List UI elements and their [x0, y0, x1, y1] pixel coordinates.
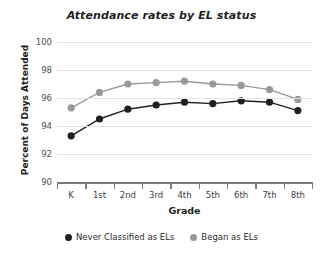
data-point: [238, 82, 245, 89]
data-point: [68, 132, 75, 139]
x-axis-tick: [142, 182, 143, 189]
data-point: [209, 80, 216, 87]
chart-legend: Never Classified as ELsBegan as ELs: [0, 232, 323, 242]
x-axis-tick: [199, 182, 200, 189]
y-axis-tick-label: 90: [26, 178, 52, 187]
x-axis-tick: [114, 182, 115, 189]
data-point: [153, 101, 160, 108]
data-point: [96, 115, 103, 122]
data-point: [96, 89, 103, 96]
x-axis-tick: [170, 182, 171, 189]
plot-area: [57, 42, 312, 182]
x-axis-line: [57, 182, 312, 184]
x-axis-tick: [312, 182, 313, 189]
legend-marker-icon: [190, 234, 197, 241]
gridline: [57, 98, 312, 99]
data-point: [294, 96, 301, 103]
data-point: [124, 80, 131, 87]
x-axis-title: Grade: [57, 205, 312, 216]
gridline: [57, 42, 312, 43]
legend-item[interactable]: Never Classified as ELs: [65, 232, 174, 242]
data-point: [181, 99, 188, 106]
y-axis-tick-labels: 9092949698100: [20, 0, 52, 264]
x-axis-tick: [255, 182, 256, 189]
data-point: [294, 107, 301, 114]
legend-marker-icon: [65, 234, 72, 241]
x-axis-tick: [284, 182, 285, 189]
data-point: [153, 79, 160, 86]
gridline: [57, 154, 312, 155]
x-axis-tick: [227, 182, 228, 189]
gridline: [57, 126, 312, 127]
data-point: [181, 78, 188, 85]
data-point: [124, 106, 131, 113]
y-axis-tick-label: 98: [26, 66, 52, 75]
y-axis-tick-label: 92: [26, 150, 52, 159]
data-point: [209, 100, 216, 107]
y-axis-tick-label: 96: [26, 94, 52, 103]
x-axis-tick-label: 8th: [278, 190, 318, 200]
legend-label: Never Classified as ELs: [76, 232, 174, 242]
y-axis-tick-label: 94: [26, 122, 52, 131]
series-layer: [57, 42, 312, 182]
legend-item[interactable]: Began as ELs: [190, 232, 258, 242]
chart-figure: Attendance rates by EL status Percent of…: [0, 0, 323, 264]
x-axis-tick: [57, 182, 58, 189]
legend-label: Began as ELs: [201, 232, 258, 242]
series-line: [71, 101, 298, 136]
data-point: [266, 99, 273, 106]
gridline: [57, 70, 312, 71]
y-axis-tick-label: 100: [26, 38, 52, 47]
x-axis-tick: [85, 182, 86, 189]
data-point: [266, 86, 273, 93]
data-point: [68, 104, 75, 111]
